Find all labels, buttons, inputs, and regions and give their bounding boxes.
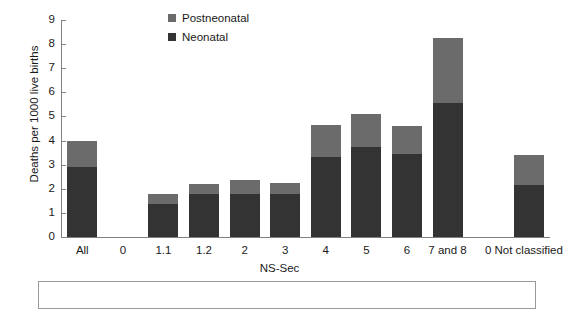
- y-axis-tick-label: 7: [33, 62, 55, 73]
- bar-column: [67, 141, 97, 237]
- bar-segment-postneonatal: [351, 114, 381, 147]
- y-axis-tick-label: 5: [33, 110, 55, 121]
- bar-segment-postneonatal: [148, 194, 178, 205]
- bar-segment-postneonatal: [392, 126, 422, 154]
- bar-segment-neonatal: [270, 194, 300, 237]
- bar-segment-neonatal: [148, 204, 178, 237]
- bar-segment-neonatal: [67, 167, 97, 237]
- y-axis-tick-label: 4: [33, 135, 55, 146]
- bar-segment-postneonatal: [189, 184, 219, 194]
- bar-segment-neonatal: [230, 194, 260, 237]
- bar-segment-neonatal: [433, 103, 463, 237]
- bar-column: [189, 184, 219, 237]
- x-axis-tick-label: Not classified: [489, 244, 567, 256]
- y-axis-tick-label: 0: [33, 231, 55, 242]
- bar-column: [514, 155, 544, 237]
- bar-segment-postneonatal: [270, 183, 300, 194]
- bar-segment-postneonatal: [514, 155, 544, 185]
- x-axis-title: NS-Sec: [0, 262, 559, 274]
- bar-segment-neonatal: [514, 185, 544, 237]
- plot-area: [62, 20, 549, 237]
- bar-column: [311, 125, 341, 237]
- bar-column: [433, 38, 463, 237]
- bar-segment-neonatal: [189, 194, 219, 237]
- bar-column: [270, 183, 300, 237]
- bar-column: [148, 194, 178, 237]
- bar-column: [351, 114, 381, 237]
- footnote-box: [38, 281, 536, 309]
- bar-segment-postneonatal: [230, 180, 260, 193]
- y-axis-tick-label: 9: [33, 14, 55, 25]
- bar-column: [392, 126, 422, 237]
- y-axis-tick-label: 8: [33, 38, 55, 49]
- y-axis-tick-label: 6: [33, 86, 55, 97]
- y-axis-tick-label: 3: [33, 159, 55, 170]
- y-axis-tick-label: 1: [33, 207, 55, 218]
- bar-segment-neonatal: [392, 154, 422, 237]
- bar-segment-postneonatal: [433, 38, 463, 103]
- bar-segment-neonatal: [351, 147, 381, 237]
- bar-column: [230, 180, 260, 237]
- y-axis-tick-label: 2: [33, 183, 55, 194]
- bar-segment-postneonatal: [311, 125, 341, 158]
- bar-segment-neonatal: [311, 157, 341, 237]
- bar-segment-postneonatal: [67, 141, 97, 168]
- x-axis-line: [61, 237, 550, 238]
